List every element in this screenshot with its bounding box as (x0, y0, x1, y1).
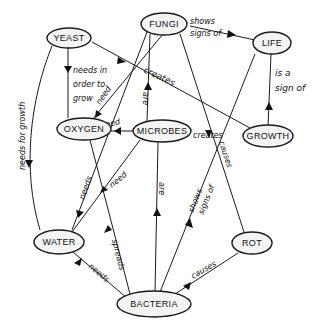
node-fungi: FUNGI (141, 13, 187, 35)
edge-label: are (157, 182, 166, 195)
node-microbes: MICROBES (133, 120, 191, 142)
arrow-icon (74, 258, 82, 266)
svg-text:LIFE: LIFE (262, 38, 282, 48)
edge-label: creates (193, 131, 223, 140)
edge-label: causes (190, 259, 218, 281)
edge-yeast-water: needs for growth (18, 46, 52, 230)
concept-map: needs in order to grow needs for growth … (0, 0, 327, 331)
svg-text:OXYGEN: OXYGEN (64, 124, 104, 134)
edge-microbes-growth: creates (193, 131, 223, 140)
arrow-icon (144, 82, 152, 90)
arrow-icon (153, 208, 161, 216)
edge-label: sign of (275, 83, 307, 93)
edge-label: need (108, 169, 130, 189)
node-rot: ROT (232, 232, 272, 254)
svg-text:YEAST: YEAST (53, 33, 84, 43)
arrow-icon (95, 110, 102, 118)
edge-label: is a (275, 68, 291, 78)
edge-label: needs for growth (18, 102, 27, 170)
edge-bacteria-rot: causes (172, 253, 238, 296)
edge-label: causes (217, 140, 234, 169)
node-bacteria: BACTERIA (117, 291, 191, 317)
node-yeast: YEAST (47, 28, 91, 48)
edge-yeast-oxygen: needs in order to grow (64, 47, 107, 118)
edge-bacteria-life: shows signs of (160, 54, 255, 292)
edge-label: needs (77, 175, 94, 201)
node-life: LIFE (253, 32, 291, 54)
svg-text:ROT: ROT (242, 238, 262, 248)
node-water: WATER (34, 230, 84, 254)
edge-label: needs in (73, 66, 107, 75)
svg-text:BACTERIA: BACTERIA (130, 299, 177, 309)
arrow-icon (183, 282, 191, 290)
svg-text:FUNGI: FUNGI (149, 19, 179, 29)
edge-label: are (141, 92, 150, 105)
edge-label: signs of (190, 29, 222, 38)
edge-bacteria-microbes: are (153, 141, 166, 292)
arrow-icon (64, 66, 72, 73)
arrow-icon (265, 102, 273, 110)
svg-text:GROWTH: GROWTH (247, 131, 290, 141)
edge-fungi-life: shows signs of (190, 17, 255, 40)
node-growth: GROWTH (243, 125, 293, 147)
arrow-icon (114, 127, 121, 135)
edge-growth-life: is a sign of (265, 54, 307, 126)
edge-label: spreads (110, 238, 126, 271)
arrow-icon (227, 30, 236, 38)
svg-text:WATER: WATER (43, 237, 76, 247)
edge-label: needs (87, 262, 111, 284)
node-oxygen: OXYGEN (57, 118, 111, 140)
arrow-icon (104, 225, 112, 233)
svg-text:MICROBES: MICROBES (137, 126, 187, 136)
edge-label: order to (73, 80, 105, 89)
edge-label: shows (190, 17, 215, 26)
edge-label: grow (73, 94, 93, 103)
